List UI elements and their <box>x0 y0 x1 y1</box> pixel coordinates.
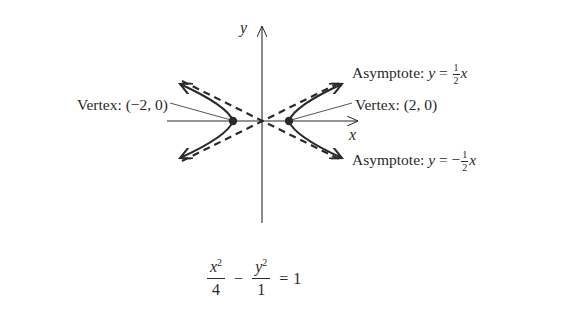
leader-line-vertex-right <box>291 103 352 120</box>
frac-num: 1 <box>453 63 460 75</box>
asymptote-label-negative-x: x <box>469 151 476 168</box>
hyperbola-branch-right-upper <box>289 84 342 121</box>
vertex-point-right <box>285 117 293 125</box>
leader-line-vertex-left <box>170 103 231 120</box>
asymptote-label-positive-prefix: Asymptote: <box>352 64 428 81</box>
equation-term-x-denominator: 4 <box>212 279 220 299</box>
asymptote-label-positive-x: x <box>461 64 468 81</box>
hyperbola-equation: x2 4 − y2 1 = 1 <box>203 258 301 299</box>
asymptote-label-positive-equals: = <box>435 64 452 81</box>
equation-term-x-numerator: x2 <box>207 258 225 279</box>
fraction-one-half: 12 <box>453 63 460 86</box>
x-axis-label: x <box>349 127 356 143</box>
equation-term-y-numerator: y2 <box>252 258 270 279</box>
equation-equals: = <box>279 270 288 288</box>
vertex-label-left: Vertex: (−2, 0) <box>77 97 168 113</box>
equation-term-y: y2 1 <box>252 258 270 299</box>
vertex-point-left <box>229 117 237 125</box>
hyperbola-branch-right-lower <box>289 121 342 158</box>
frac-num: 1 <box>461 150 468 162</box>
asymptote-label-positive: Asymptote: y = 12x <box>352 63 468 86</box>
equation-term-x: x2 4 <box>207 258 225 299</box>
frac-den: 2 <box>461 162 468 173</box>
equation-term-y-denominator: 1 <box>257 279 265 299</box>
asymptote-label-negative-sign: − <box>452 151 461 168</box>
asymptote-label-negative-prefix: Asymptote: <box>352 151 428 168</box>
vertex-label-right: Vertex: (2, 0) <box>355 97 437 113</box>
frac-den: 2 <box>453 75 460 86</box>
exponent: 2 <box>217 257 222 268</box>
y-axis-label: y <box>240 20 247 36</box>
equation-minus: − <box>234 270 243 288</box>
fraction-one-half: 12 <box>461 150 468 173</box>
equation-rhs: 1 <box>293 270 301 288</box>
asymptote-label-negative: Asymptote: y = −12x <box>352 150 476 173</box>
exponent: 2 <box>262 257 267 268</box>
asymptote-label-negative-equals: = <box>435 151 452 168</box>
